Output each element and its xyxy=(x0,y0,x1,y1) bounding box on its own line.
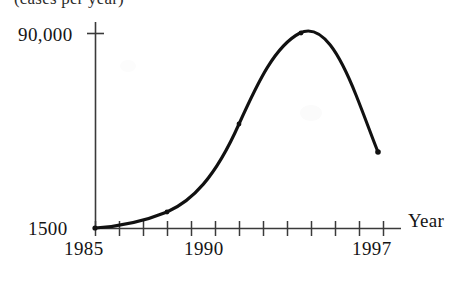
x-axis-label-1985: 1985 xyxy=(64,239,104,258)
data-point-1991 xyxy=(237,122,242,127)
x-axis-label-1997: 1997 xyxy=(352,239,392,258)
data-point-peak xyxy=(299,31,304,36)
x-axis-label-1990: 1990 xyxy=(184,239,224,258)
x-axis-title: Year xyxy=(408,211,444,230)
data-point-1988 xyxy=(165,210,170,215)
chart-subtitle: (cases per year) xyxy=(14,0,124,7)
y-axis-label-top: 90,000 xyxy=(18,25,73,44)
data-point-1997 xyxy=(375,149,381,155)
data-point-1985 xyxy=(92,225,97,230)
data-line-cases xyxy=(95,31,378,228)
y-axis-label-bottom: 1500 xyxy=(28,219,68,238)
chart-figure: (cases per year) 90,000 1500 1985 1990 1… xyxy=(0,0,455,281)
